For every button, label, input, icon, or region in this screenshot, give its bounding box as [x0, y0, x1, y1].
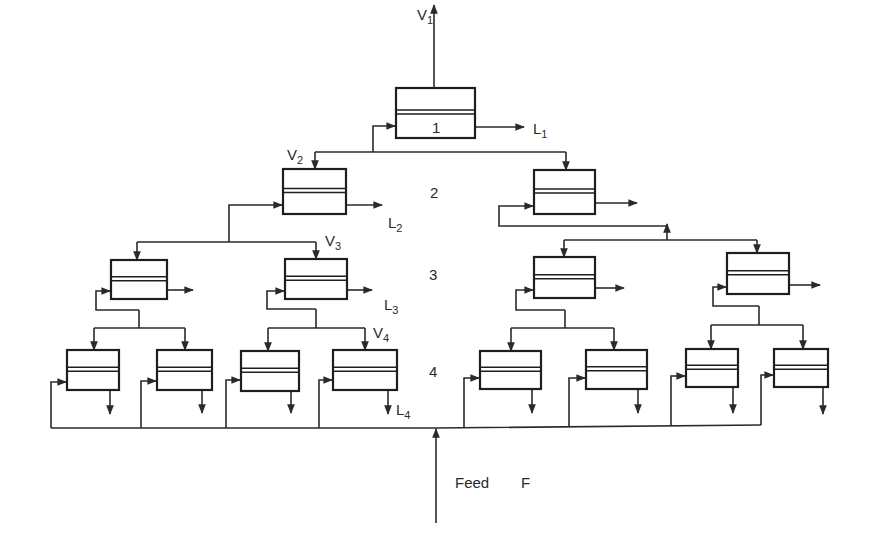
unit-vessel	[534, 257, 595, 298]
stage-label-1: 1	[432, 119, 440, 136]
feed-inlet-h	[761, 375, 773, 425]
unit-vessel	[285, 259, 347, 299]
separation-unit-4h	[774, 349, 828, 387]
feed-inlet-f	[569, 378, 585, 427]
feed-inlet-g	[671, 376, 685, 426]
unit-vessel	[157, 350, 212, 390]
unit-vessel	[111, 260, 167, 299]
feed-label: Feed F	[455, 474, 530, 491]
label-v3: V3	[325, 232, 341, 252]
separation-unit-4b	[157, 350, 212, 390]
unit-vessel	[727, 253, 789, 294]
unit-vessel	[774, 349, 828, 387]
label-l1: L1	[533, 120, 547, 140]
label-v4: V4	[373, 324, 389, 344]
feed-label-symbol: F	[521, 474, 530, 491]
unit-vessel	[241, 351, 299, 391]
separation-unit-2a	[283, 169, 346, 214]
feed-inlet-a	[51, 382, 66, 428]
label-l3: L3	[384, 296, 398, 316]
unit-vessel	[686, 349, 738, 387]
feed-inlet-e	[464, 378, 479, 427]
separation-unit-4a	[67, 350, 119, 390]
feed-inlet-c	[226, 380, 240, 428]
stage1-inlet-pipe	[373, 126, 395, 152]
separation-unit-4d	[333, 350, 397, 390]
label-v2: V2	[287, 146, 303, 166]
unit-vessel	[480, 351, 541, 389]
feed-header	[51, 425, 761, 428]
unit-vessel	[534, 170, 595, 214]
feed-inlet-b	[141, 381, 156, 428]
unit-vessel	[333, 350, 397, 390]
stage-labels: 1 2 3 4	[429, 119, 440, 380]
cascade-diagram: 1 2 3 4 V1 L1 V2 L2 V3 L3 V4 L4 Feed F	[0, 0, 873, 560]
separation-unit-4g	[686, 349, 738, 387]
unit-vessel	[283, 169, 346, 214]
unit-vessel	[67, 350, 119, 390]
separation-unit-4e	[480, 351, 541, 389]
separation-unit-3b	[285, 259, 347, 299]
separation-unit-3c	[534, 257, 595, 298]
stage-label-3: 3	[429, 266, 437, 283]
stage2-left-inlet	[229, 205, 282, 242]
separation-unit-4f	[586, 350, 647, 389]
unit-vessel	[586, 350, 647, 389]
stage-label-2: 2	[430, 184, 438, 201]
separation-unit-3a	[111, 260, 167, 299]
label-v1: V1	[417, 6, 433, 26]
separation-unit-4c	[241, 351, 299, 391]
feed-label-text: Feed	[455, 474, 489, 491]
stage-label-4: 4	[429, 363, 437, 380]
label-l4: L4	[396, 401, 410, 421]
label-l2: L2	[388, 214, 402, 234]
separation-unit-2b	[534, 170, 595, 214]
separation-unit-3d	[727, 253, 789, 294]
feed-inlet-d	[319, 380, 332, 428]
